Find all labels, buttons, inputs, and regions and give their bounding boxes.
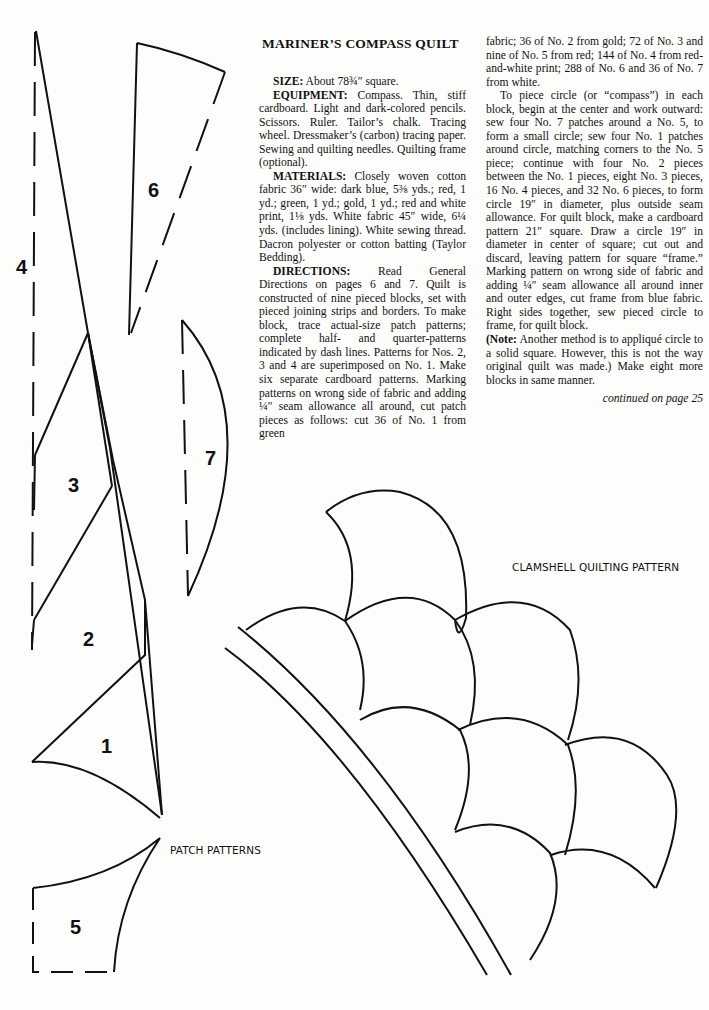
materials-text: Closely woven cotton fabric 36″ wide: da…: [259, 170, 466, 264]
patch-number-2: 2: [83, 629, 94, 649]
size-text: About 78¾″ square.: [303, 75, 398, 88]
article-column-1: SIZE: About 78¾″ square. EQUIPMENT: Comp…: [259, 75, 466, 441]
article-column-2: fabric; 36 of No. 2 from gold; 72 of No.…: [486, 35, 703, 406]
patch-number-6: 6: [148, 180, 159, 200]
patch-5-outline: [33, 838, 160, 972]
patch-number-5: 5: [70, 917, 81, 937]
patch-number-3: 3: [68, 475, 79, 495]
patch-number-7: 7: [205, 448, 216, 468]
patch-patterns-drawing: [32, 31, 228, 972]
continued-link: continued on page 25: [486, 392, 703, 406]
note-label: (Note:: [486, 333, 517, 346]
clamshell-shell: [458, 718, 576, 855]
patch-number-4: 4: [16, 257, 27, 277]
clamshell-caption: CLAMSHELL QUILTING PATTERN: [512, 561, 679, 573]
patch-7-fold-line: [182, 320, 188, 596]
directions-text: Read General Directions on pages 6 and 7…: [259, 265, 466, 441]
note-paragraph: (Note: Another method is to appliqué cir…: [486, 333, 703, 387]
size-label: SIZE:: [273, 75, 303, 88]
clamshell-shell: [455, 825, 557, 960]
size-paragraph: SIZE: About 78¾″ square.: [259, 75, 466, 89]
clamshell-shell: [345, 598, 475, 725]
patch-number-1: 1: [101, 736, 112, 756]
clamshell-border-inner: [238, 627, 511, 975]
piecing-paragraph: To piece circle (or “compass”) in each b…: [486, 89, 703, 333]
patch-2-outline: [32, 600, 145, 762]
article-title: MARINER’S COMPASS QUILT: [262, 36, 459, 52]
directions-continued-paragraph: fabric; 36 of No. 2 from gold; 72 of No.…: [486, 35, 703, 89]
patch-patterns-caption: PATCH PATTERNS: [170, 844, 261, 856]
equipment-label: EQUIPMENT:: [273, 89, 348, 102]
note-text: Another method is to appliqué circle to …: [486, 333, 703, 387]
pattern-fold-line: [32, 32, 35, 650]
patch-6-fold-line: [131, 72, 225, 333]
patch-1-outline: [32, 762, 160, 818]
materials-paragraph: MATERIALS: Closely woven cotton fabric 3…: [259, 170, 466, 265]
directions-label: DIRECTIONS:: [273, 265, 350, 278]
directions-paragraph: DIRECTIONS: Read General Directions on p…: [259, 265, 466, 441]
clamshell-shell: [326, 512, 352, 621]
materials-label: MATERIALS:: [273, 170, 346, 183]
clamshell-border-outer: [225, 648, 487, 975]
equipment-paragraph: EQUIPMENT: Compass. Thin, stiff cardboar…: [259, 89, 466, 170]
clamshell-shell: [246, 607, 364, 710]
patch-6-outline: [129, 43, 225, 335]
patch-3-right-edge: [88, 333, 112, 486]
clamshell-shell: [551, 850, 655, 888]
clamshell-shell: [565, 737, 676, 888]
